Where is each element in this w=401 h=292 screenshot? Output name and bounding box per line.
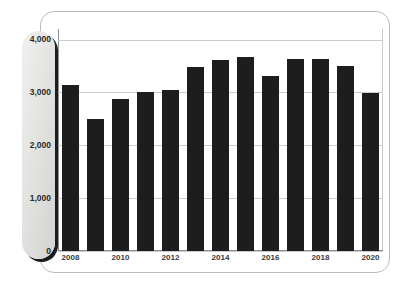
bar[interactable] [262,76,279,251]
gridline-0 [58,251,383,252]
x-axis-tick-labels: 2008201020122014201620182020 [58,253,383,265]
bar[interactable] [162,90,179,251]
bar-series [58,29,383,251]
y-axis-tick-label: 4,000 [23,35,51,44]
x-axis-tick-label: 2016 [262,253,280,262]
y-axis-tick-label: 3,000 [23,88,51,97]
bar[interactable] [337,66,354,251]
bar[interactable] [212,60,229,251]
bar[interactable] [362,93,379,251]
x-axis-tick-label: 2012 [162,253,180,262]
y-axis-tick-label: 1,000 [23,194,51,203]
x-axis-tick-label: 2008 [62,253,80,262]
bar[interactable] [187,67,204,251]
bar[interactable] [112,99,129,251]
bar[interactable] [62,85,79,252]
bar[interactable] [287,59,304,251]
y-axis-tick-label: 0 [23,247,51,256]
x-axis-tick-label: 2020 [362,253,380,262]
bar[interactable] [237,57,254,252]
x-axis-tick-label: 2014 [212,253,230,262]
plot-area [58,29,383,251]
figure-container: Net Sales in Billion Yen 4,0003,0002,000… [0,0,401,292]
x-axis-tick-label: 2010 [112,253,130,262]
y-axis-tick-label: 2,000 [23,141,51,150]
x-axis-tick-label: 2018 [312,253,330,262]
bar[interactable] [312,59,329,251]
y-axis-label-pill: 4,0003,0002,0001,0000 [22,31,55,259]
bar[interactable] [137,92,154,251]
bar[interactable] [87,119,104,251]
